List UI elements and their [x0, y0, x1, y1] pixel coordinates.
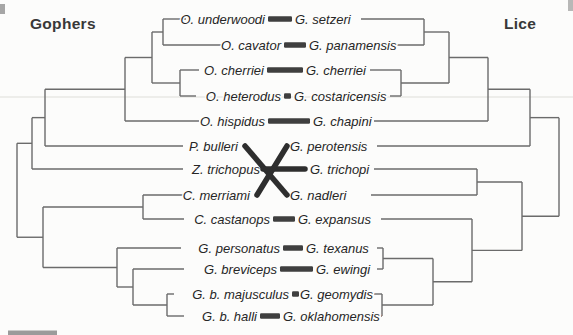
association-bar	[284, 42, 306, 47]
association-bar	[268, 118, 310, 123]
parasite-tree	[361, 19, 559, 316]
association-bar	[283, 245, 303, 250]
parasite-label: G. costaricensis	[294, 89, 387, 104]
parasite-label: G. expansus	[298, 212, 371, 227]
host-label: G. personatus	[198, 241, 280, 256]
association-bar	[280, 266, 313, 271]
parasite-label: G. setzeri	[295, 12, 352, 27]
parasite-label: G. perotensis	[290, 139, 368, 154]
gophers-heading: Gophers	[30, 15, 96, 32]
host-label: C. merriami	[183, 188, 251, 203]
parasite-label: G. texanus	[306, 241, 369, 256]
host-label: O. heterodus	[206, 89, 282, 104]
lice-heading: Lice	[504, 15, 536, 32]
association-square	[284, 93, 291, 98]
tanglegram-svg: O. underwoodiG. setzeriO. cavatorG. pana…	[0, 0, 573, 335]
association-bar	[273, 216, 295, 221]
scan-artifact-right	[568, 0, 573, 11]
host-label: Z. trichopus	[191, 162, 260, 177]
host-label: O. hispidus	[200, 114, 266, 129]
host-label: O. cherriei	[204, 63, 265, 78]
host-label: P. bulleri	[189, 139, 239, 154]
parasite-label: G. nadleri	[290, 188, 347, 203]
parasite-label: G. chapini	[313, 114, 373, 129]
parasite-label: G. ewingi	[316, 262, 371, 277]
association-bar	[268, 16, 292, 21]
parasite-label: G. geomydis	[300, 287, 373, 302]
parasite-label: G. cherriei	[306, 63, 367, 78]
host-label: C. castanops	[194, 212, 270, 227]
parasite-label: G. trichopi	[310, 162, 370, 177]
host-label: G. b. majusculus	[192, 287, 289, 302]
cophylogeny-figure: O. underwoodiG. setzeriO. cavatorG. pana…	[0, 0, 573, 335]
association-bar	[267, 67, 303, 72]
host-label: O. cavator	[221, 38, 282, 53]
host-label: G. breviceps	[204, 262, 277, 277]
association-square	[292, 291, 299, 296]
host-tree	[17, 19, 221, 316]
parasite-label: G. oklahomensis	[283, 309, 380, 324]
association-bar	[260, 313, 280, 318]
scale-bar-fragment	[8, 331, 57, 335]
host-label: O. underwoodi	[180, 12, 266, 27]
parasite-label: G. panamensis	[309, 38, 397, 53]
host-label: G. b. halli	[202, 309, 258, 324]
scan-artifact-left	[0, 4, 5, 14]
